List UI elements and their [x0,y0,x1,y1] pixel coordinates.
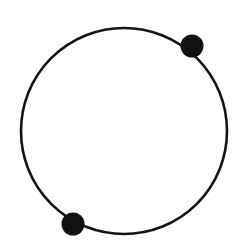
point-marker-lower-left[interactable] [62,213,85,236]
figure-canvas [0,0,249,248]
circle-diagram-svg [0,0,249,248]
point-marker-upper-right[interactable] [181,35,204,58]
background-plate [0,0,249,248]
